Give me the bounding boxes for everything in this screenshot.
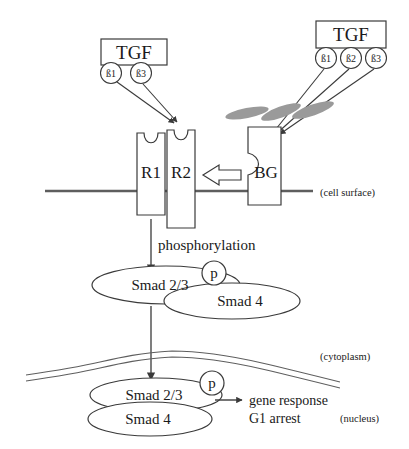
tgf-right-ligand-group: TGF ß1 ß2 ß3: [272, 21, 387, 134]
cytoplasmic-smad4-label: Smad 4: [217, 293, 263, 309]
receptor-r1-group: R1: [137, 133, 165, 215]
cytoplasmic-smad-complex: Smad 2/3 Smad 4 p: [92, 261, 300, 319]
cell-surface-label: (cell surface): [320, 187, 376, 199]
tgf-b1-to-r2-arrow: [117, 82, 174, 123]
tgf-right-box-label: TGF: [333, 24, 369, 45]
tgf-right-isoform-b3-label: ß3: [371, 53, 381, 64]
tgf-right-isoform-b1-label: ß1: [321, 53, 331, 64]
tgf-left-ligand-group: TGF ß1 ß3: [101, 39, 178, 123]
tgf-right-b1-to-bg-arrow: [272, 69, 324, 134]
tgf-b3-to-r2-arrow: [143, 84, 177, 122]
receptor-r2-label: R2: [171, 163, 191, 182]
tgf-right-isoform-b2-label: ß2: [346, 53, 356, 64]
nuclear-envelope-outer-line: [26, 351, 340, 382]
receptor-bg-group: BG: [248, 127, 281, 205]
gene-response-line1: gene response: [249, 393, 328, 408]
nuclear-phosphate-label: p: [208, 375, 216, 391]
gene-response-line2: G1 arrest: [249, 411, 301, 426]
nuclear-smad23-label: Smad 2/3: [125, 387, 182, 403]
tgf-right-b2-to-bg-arrow: [276, 69, 349, 134]
tgf-left-isoform-b1-label: ß1: [106, 68, 116, 79]
receptor-r1-label: R1: [141, 163, 161, 182]
receptor-bg-label: BG: [254, 163, 278, 182]
receptor-r2-group: R2: [167, 130, 195, 228]
tgf-left-isoform-b3-label: ß3: [136, 68, 146, 79]
nucleus-label: (nucleus): [340, 413, 380, 425]
nuclear-smad4-label: Smad 4: [125, 411, 171, 427]
phosphorylation-label: phosphorylation: [158, 237, 256, 253]
nuclear-smad-complex: Smad 2/3 Smad 4 p: [88, 371, 224, 436]
tgf-beta-pathway-diagram: TGF ß1 ß3 TGF ß1 ß2 ß3: [0, 0, 409, 449]
tgf-left-box-label: TGF: [116, 42, 152, 63]
cytoplasmic-smad23-label: Smad 2/3: [131, 277, 188, 293]
bg-bound-ligand-blobs: [224, 98, 335, 125]
pathway-canvas: TGF ß1 ß3 TGF ß1 ß2 ß3: [0, 0, 409, 449]
cytoplasm-label: (cytoplasm): [320, 351, 371, 363]
bg-to-r2-hollow-arrow: [203, 165, 241, 185]
cytoplasmic-phosphate-label: p: [210, 265, 218, 281]
